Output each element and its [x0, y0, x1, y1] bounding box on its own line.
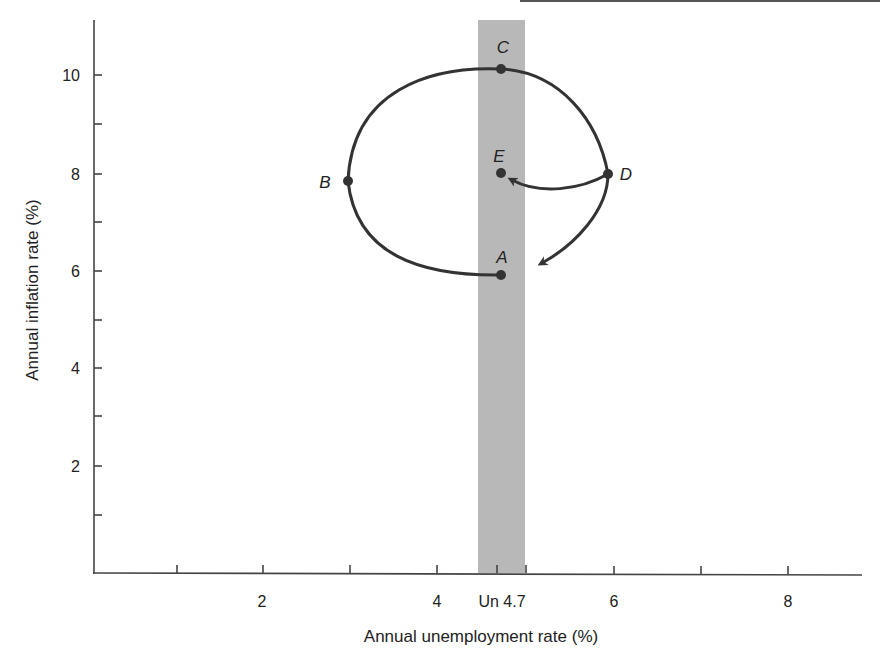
- y-tick-label-4: 4: [71, 360, 80, 377]
- point-e: [496, 168, 506, 178]
- x-tick-label-8: 8: [784, 593, 793, 610]
- x-tick-label-6: 6: [610, 593, 619, 610]
- x-tick-label-natural-rate: Un 4.7: [478, 593, 525, 610]
- y-tick-label-10: 10: [62, 67, 80, 84]
- point-d: [603, 169, 613, 179]
- natural-unemployment-band: [478, 20, 525, 573]
- point-a: [496, 270, 506, 280]
- point-b: [343, 176, 353, 186]
- point-label-a: A: [495, 248, 507, 267]
- y-axis-title: Annual inflation rate (%): [23, 199, 42, 380]
- x-tick-label-4: 4: [433, 593, 442, 610]
- point-label-c: C: [497, 38, 510, 57]
- path-d-to-e: [512, 174, 608, 189]
- point-label-d: D: [620, 165, 632, 184]
- x-tick-label-2: 2: [258, 593, 267, 610]
- point-c: [496, 64, 506, 74]
- y-axis: [94, 20, 102, 574]
- y-tick-label-6: 6: [71, 263, 80, 280]
- y-tick-label-8: 8: [71, 166, 80, 183]
- phillips-curve-chart: 10 8 6 4 2 2 4 Un 4.7 6 8 Annual unemplo…: [0, 0, 880, 669]
- y-tick-label-2: 2: [71, 458, 80, 475]
- x-axis: [93, 565, 862, 575]
- point-label-e: E: [493, 147, 505, 166]
- x-axis-title: Annual unemployment rate (%): [364, 627, 598, 646]
- point-label-b: B: [319, 173, 330, 192]
